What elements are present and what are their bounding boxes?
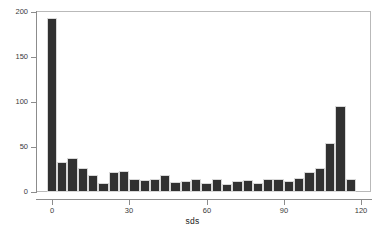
x-axis-tick (129, 200, 130, 205)
histogram-bar (284, 181, 294, 192)
y-axis-tick (31, 147, 36, 148)
y-axis-tick (31, 57, 36, 58)
histogram-bar (294, 178, 304, 192)
histogram-bar (212, 179, 222, 192)
histogram-bar (98, 183, 108, 192)
histogram-bar (160, 175, 170, 192)
histogram-bar (222, 184, 232, 192)
y-axis-tick (31, 12, 36, 13)
y-axis-line (36, 11, 37, 193)
y-axis-tick-label: 0 (24, 188, 28, 196)
histogram-bar (315, 168, 325, 192)
x-axis-tick-label: 0 (50, 206, 54, 215)
histogram-bar (304, 172, 314, 192)
x-axis-tick-label: 30 (125, 206, 133, 215)
histogram-bar (109, 172, 119, 192)
histogram-bar (140, 180, 150, 192)
histogram-bar (335, 106, 345, 192)
y-axis-tick-label: 200 (15, 8, 28, 16)
plot-area (36, 11, 371, 192)
histogram-bar (273, 179, 283, 193)
x-axis-tick-label: 90 (280, 206, 288, 215)
histogram-bar (325, 143, 335, 193)
y-axis-tick (31, 102, 36, 103)
histogram-bar (78, 168, 88, 192)
x-axis-tick-label: 120 (355, 206, 368, 215)
x-axis-title: sds (0, 216, 385, 226)
histogram-bar (243, 180, 253, 192)
histogram-bar (129, 179, 139, 193)
histogram-bar (119, 171, 129, 192)
histogram-bar (170, 182, 180, 192)
y-axis-tick (31, 192, 36, 193)
x-axis-tick (284, 200, 285, 205)
x-axis-tick-label: 60 (203, 206, 211, 215)
histogram-bar (88, 175, 98, 192)
y-axis-tick-label: 50 (20, 143, 28, 151)
x-axis-tick (52, 200, 53, 205)
histogram-bar (67, 158, 77, 192)
histogram-bar (150, 179, 160, 192)
histogram-bar (181, 181, 191, 192)
histogram-bar (201, 183, 211, 192)
histogram-bar (263, 179, 273, 193)
x-axis-line (36, 199, 372, 200)
x-axis-tick (207, 200, 208, 205)
x-axis-tick (361, 200, 362, 205)
histogram-bar (232, 181, 242, 192)
y-axis-tick-label: 100 (15, 98, 28, 106)
histogram-bar (47, 18, 57, 192)
y-axis-tick-label: 150 (15, 53, 28, 61)
histogram-screenshot: 050100150200 0306090120 sds (0, 0, 385, 233)
histogram-bar (191, 179, 201, 193)
histogram-bar (346, 179, 356, 192)
histogram-bar (57, 162, 67, 192)
histogram-bar (253, 183, 263, 192)
